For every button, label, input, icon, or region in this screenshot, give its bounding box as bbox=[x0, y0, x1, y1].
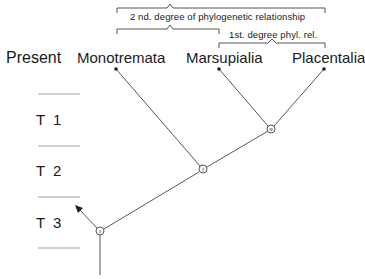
bracket-monotremata-group bbox=[117, 25, 219, 34]
taxon-placentalia: Placentalia bbox=[292, 49, 365, 66]
bracket-first-degree bbox=[219, 39, 325, 48]
branch-placentalia bbox=[274, 69, 324, 126]
time-label-t2: T 2 bbox=[36, 162, 63, 179]
node-w: w bbox=[267, 125, 275, 133]
first-degree-label: 1st. degree phyl. rel. bbox=[229, 29, 317, 40]
time-label-t1: T 1 bbox=[36, 111, 63, 128]
dot-placentalia bbox=[322, 67, 326, 71]
branch-marsupialia bbox=[219, 69, 268, 126]
dot-marsupialia bbox=[217, 67, 221, 71]
second-degree-label: 2 nd. degree of phylogenetic relationshi… bbox=[130, 11, 305, 22]
branch-monotremata bbox=[116, 69, 200, 166]
branch-w-y bbox=[207, 131, 268, 167]
taxon-marsupialia: Marsupialia bbox=[186, 49, 263, 66]
arrow-branch bbox=[79, 209, 97, 228]
time-label-t3: T 3 bbox=[36, 214, 63, 231]
branch-y-x bbox=[104, 172, 199, 229]
terminal-dots bbox=[114, 67, 326, 71]
dot-monotremata bbox=[114, 67, 118, 71]
present-label: Present bbox=[6, 49, 61, 67]
node-y: y bbox=[199, 165, 207, 173]
node-x: x bbox=[96, 227, 104, 235]
taxon-monotremata: Monotremata bbox=[77, 49, 165, 66]
